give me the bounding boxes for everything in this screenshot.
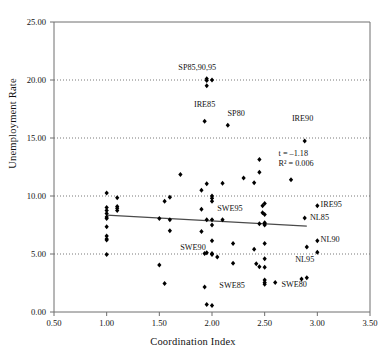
data-point <box>231 261 235 266</box>
data-point <box>210 223 214 228</box>
data-point <box>257 264 261 269</box>
point-label-swe95: SWE95 <box>217 204 242 213</box>
data-points <box>105 76 320 308</box>
data-point <box>205 181 209 186</box>
data-point <box>115 195 119 200</box>
data-point <box>105 224 109 229</box>
data-point <box>105 191 109 196</box>
data-point <box>178 172 182 177</box>
data-point <box>205 217 209 222</box>
data-point <box>241 176 245 181</box>
data-point <box>162 199 166 204</box>
data-point <box>257 157 261 162</box>
y-tick-label-0: 0.00 <box>8 307 46 317</box>
data-point <box>210 199 214 204</box>
point-label-nl90: NL90 <box>320 235 339 244</box>
data-point <box>215 254 219 259</box>
data-point <box>252 180 256 185</box>
data-point <box>210 238 214 243</box>
data-point <box>203 285 207 290</box>
x-tick-label-0: 0.50 <box>34 318 74 328</box>
data-point <box>252 247 256 252</box>
data-point <box>168 195 172 200</box>
data-point <box>254 261 258 266</box>
x-axis-title: Coordination Index <box>0 336 386 347</box>
x-tick-label-4: 2.50 <box>245 318 285 328</box>
data-point <box>205 83 209 88</box>
data-point <box>105 252 109 257</box>
data-point <box>257 170 261 175</box>
x-tick-label-1: 1.00 <box>87 318 127 328</box>
point-label-swe85: SWE85 <box>219 281 244 290</box>
point-label-ire95: IRE95 <box>320 200 341 209</box>
data-point <box>203 119 207 124</box>
x-tick-label-2: 1.50 <box>139 318 179 328</box>
data-point <box>210 78 214 83</box>
data-point <box>315 203 319 208</box>
y-axis-title: Unemployment Rate <box>7 54 18 194</box>
y-tick-label-5: 25.00 <box>8 17 46 27</box>
point-label-swe80: SWE80 <box>281 280 306 289</box>
data-point <box>157 216 161 221</box>
point-label-ire90: IRE90 <box>292 114 313 123</box>
point-label-swe90: SWE90 <box>180 243 205 252</box>
x-tick-label-6: 3.50 <box>350 318 386 328</box>
data-point <box>199 207 203 212</box>
x-tick-label-3: 2.00 <box>192 318 232 328</box>
data-point <box>231 241 235 246</box>
data-point <box>199 188 203 193</box>
data-point <box>263 256 267 261</box>
data-point <box>263 265 267 270</box>
annotation-1: R² = 0.006 <box>279 159 314 168</box>
data-point <box>303 138 307 143</box>
data-point <box>263 241 267 246</box>
point-label-ire85: IRE85 <box>194 100 215 109</box>
point-label-nl95: NL95 <box>295 255 314 264</box>
y-tick-label-1: 5.00 <box>8 249 46 259</box>
point-label-nl85: NL85 <box>310 213 329 222</box>
plot-canvas <box>0 0 386 351</box>
data-point <box>226 123 230 128</box>
point-label-sp85-90-95: SP85,90,95 <box>178 63 216 72</box>
point-label-sp80: SP80 <box>228 109 245 118</box>
data-point <box>162 281 166 286</box>
data-point <box>168 228 172 233</box>
data-point <box>257 221 261 226</box>
x-tick-label-5: 3.00 <box>297 318 337 328</box>
data-point <box>199 229 203 234</box>
data-point <box>273 280 277 285</box>
data-point <box>220 181 224 186</box>
data-point <box>205 302 209 307</box>
data-point <box>289 177 293 182</box>
data-point <box>210 303 214 308</box>
data-point <box>303 216 307 221</box>
data-point <box>305 245 309 250</box>
annotation-0: t = –1.18 <box>279 149 308 158</box>
data-point <box>157 263 161 268</box>
scatter-chart: 0.005.0010.0015.0020.0025.00 0.501.001.5… <box>0 0 386 351</box>
data-point <box>315 238 319 243</box>
